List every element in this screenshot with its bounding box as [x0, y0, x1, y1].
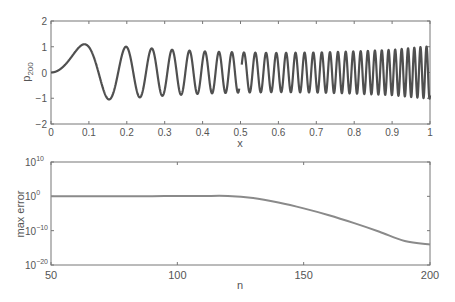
max-error-curve — [51, 196, 430, 245]
figure: 00.10.20.30.40.50.60.70.80.91 −2−1012 x … — [0, 0, 455, 302]
y-tick-label: −2 — [36, 119, 48, 130]
x-tick-label: 0.9 — [385, 127, 399, 138]
y-tick-label: 100 — [25, 189, 40, 202]
y-tick-label: 1010 — [25, 155, 44, 168]
p200-curve — [51, 44, 239, 99]
x-tick-label: 0 — [48, 127, 54, 138]
svg-text:p200: p200 — [20, 62, 35, 82]
bottom-plot: 50100150200 101010010−1010−20 n max erro… — [14, 155, 439, 291]
bottom-y-ticks: 101010010−1010−20 — [25, 155, 430, 271]
bottom-x-ticks: 50100150200 — [45, 162, 439, 281]
x-tick-label: 50 — [45, 269, 57, 281]
x-tick-label: 0.7 — [309, 127, 323, 138]
x-tick-label: 0.8 — [347, 127, 361, 138]
y-tick-label: 2 — [41, 16, 47, 27]
x-tick-label: 1 — [427, 127, 433, 138]
y-tick-label: 0 — [41, 68, 47, 79]
x-tick-label: 150 — [294, 269, 312, 281]
top-y-ticks: −2−1012 — [36, 16, 430, 130]
y-tick-label: 1 — [41, 42, 47, 53]
x-tick-label: 100 — [168, 269, 186, 281]
top-y-label: p200 — [20, 62, 35, 82]
x-tick-label: 0.3 — [158, 127, 172, 138]
bottom-x-label: n — [237, 279, 243, 291]
top-x-ticks: 00.10.20.30.40.50.60.70.80.91 — [48, 21, 433, 138]
x-tick-label: 0.1 — [82, 127, 96, 138]
bottom-y-label: max error — [14, 190, 26, 237]
p200-curve — [242, 47, 430, 99]
x-tick-label: 200 — [421, 269, 439, 281]
x-tick-label: 0.4 — [196, 127, 210, 138]
y-tick-label: 10−10 — [25, 224, 48, 237]
top-plot: 00.10.20.30.40.50.60.70.80.91 −2−1012 x … — [20, 16, 433, 149]
x-tick-label: 0.2 — [120, 127, 134, 138]
x-tick-label: 0.6 — [271, 127, 285, 138]
top-x-label: x — [237, 137, 243, 149]
y-tick-label: −1 — [36, 93, 48, 104]
top-y-label-subscript: 200 — [26, 62, 35, 76]
bottom-plot-frame — [51, 162, 430, 265]
